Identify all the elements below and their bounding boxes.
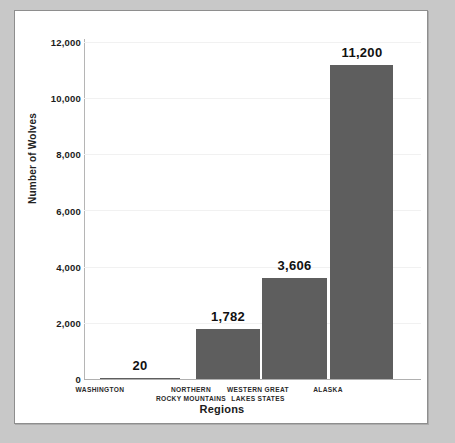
- bar-western-great-lakes-states[interactable]: [262, 278, 327, 379]
- bar-washington[interactable]: [100, 378, 180, 379]
- y-tick-4000: 4,000: [21, 261, 81, 272]
- bar-value-alaska: 11,200: [318, 45, 406, 60]
- y-tick-2000: 2,000: [21, 317, 81, 328]
- x-tick-washington-line-1: WASHINGTON: [60, 385, 140, 394]
- bar-alaska[interactable]: [330, 65, 393, 379]
- page-background: 12,000 10,000 8,000 6,000 4,000 2,000 0 …: [0, 0, 455, 443]
- y-axis-title: Number of Wolves: [27, 89, 38, 229]
- x-tick-alaska: ALASKA: [283, 385, 373, 394]
- y-tick-0: 0: [21, 374, 81, 385]
- y-tick-12000: 12,000: [21, 37, 81, 48]
- x-tick-western-great-lakes-states-line-2: LAKES STATES: [213, 394, 303, 403]
- x-tick-washington: WASHINGTON: [60, 385, 140, 394]
- bar-value-western-great-lakes-states: 3,606: [252, 258, 337, 273]
- y-axis-ticks: 12,000 10,000 8,000 6,000 4,000 2,000 0: [15, 42, 81, 379]
- bar-value-washington: 20: [100, 358, 180, 373]
- bar-series: 20 1,782 3,606 11,200: [84, 42, 421, 379]
- x-axis-line: [84, 379, 421, 380]
- bar-northern-rocky-mountains[interactable]: [196, 329, 260, 379]
- plot-area: 20 1,782 3,606 11,200: [84, 42, 421, 379]
- x-tick-alaska-line-1: ALASKA: [283, 385, 373, 394]
- chart-card: 12,000 10,000 8,000 6,000 4,000 2,000 0 …: [14, 10, 428, 424]
- bar-value-northern-rocky-mountains: 1,782: [186, 309, 270, 324]
- x-axis-title: Regions: [15, 403, 429, 415]
- bar-chart: 12,000 10,000 8,000 6,000 4,000 2,000 0 …: [15, 11, 427, 423]
